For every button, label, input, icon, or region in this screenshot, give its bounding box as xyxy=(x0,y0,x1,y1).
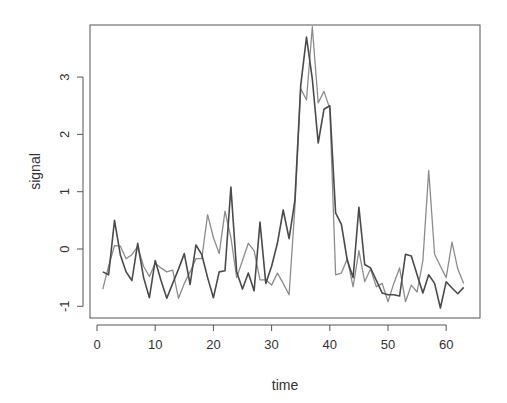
x-tick-label: 50 xyxy=(381,337,395,352)
line-chart: 0102030405060 -10123 time signal xyxy=(0,0,507,403)
series-light-line xyxy=(103,27,464,302)
x-tick-label: 60 xyxy=(439,337,453,352)
x-tick-label: 30 xyxy=(264,337,278,352)
y-tick-label: 1 xyxy=(57,188,72,195)
y-axis-label: signal xyxy=(27,153,43,190)
y-tick-label: 0 xyxy=(57,245,72,252)
x-axis-label: time xyxy=(272,377,299,393)
y-axis: -10123 xyxy=(57,73,83,312)
y-tick-label: 3 xyxy=(57,73,72,80)
x-tick-label: 20 xyxy=(206,337,220,352)
x-tick-label: 0 xyxy=(93,337,100,352)
series-dark-line xyxy=(103,37,464,308)
x-axis: 0102030405060 xyxy=(93,325,453,352)
x-tick-label: 40 xyxy=(323,337,337,352)
x-tick-label: 10 xyxy=(148,337,162,352)
y-tick-label: -1 xyxy=(57,301,72,313)
series-lines xyxy=(103,27,464,308)
y-tick-label: 2 xyxy=(57,131,72,138)
